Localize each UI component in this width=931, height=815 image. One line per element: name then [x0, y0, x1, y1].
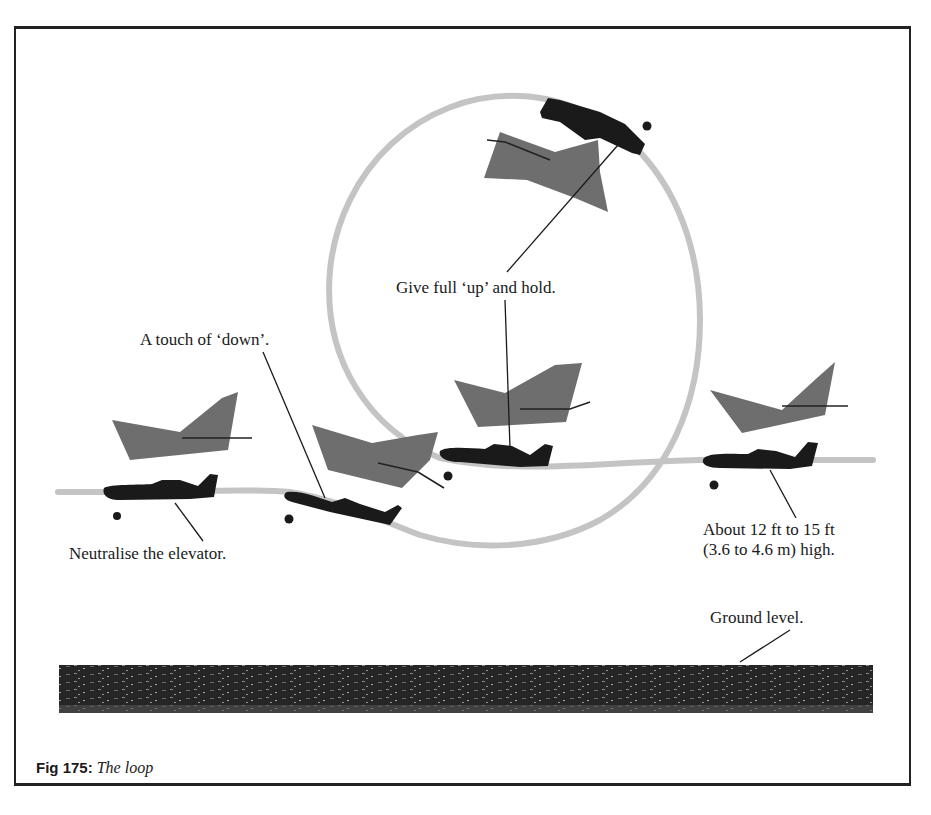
leader-touch-of-down — [263, 352, 325, 498]
label-ground-level: Ground level. — [710, 608, 803, 628]
stabilizer-lines — [182, 140, 848, 488]
tail-shadow-5 — [484, 132, 608, 212]
aircraft-4 — [703, 442, 818, 469]
aircraft-1 — [104, 474, 218, 500]
label-height-line2: (3.6 to 4.6 m) high. — [703, 540, 835, 560]
label-give-full-up: Give full ‘up’ and hold. — [396, 278, 556, 298]
figure-caption: Fig 175: The loop — [36, 759, 153, 777]
tail-shadow-3 — [454, 363, 582, 427]
leader-ground — [740, 630, 790, 662]
tail-shadow-4 — [710, 362, 835, 433]
aircraft — [104, 98, 818, 525]
aircraft-2 — [284, 492, 402, 525]
tail-shadow-1 — [112, 392, 238, 460]
loop-diagram — [0, 0, 931, 815]
label-height-line1: About 12 ft to 15 ft — [703, 520, 835, 540]
tail-shadow-2 — [312, 425, 438, 488]
leader-height — [770, 470, 796, 518]
tail-shadows — [112, 132, 835, 488]
leader-neutralise — [175, 503, 203, 541]
figure-title: The loop — [97, 759, 153, 776]
figure-number: Fig 175: — [36, 759, 93, 776]
flight-path — [58, 96, 873, 546]
label-neutralise: Neutralise the elevator. — [69, 544, 226, 564]
leader-give-full-up-bottom — [505, 300, 510, 448]
label-touch-of-down: A touch of ‘down’. — [140, 330, 269, 350]
